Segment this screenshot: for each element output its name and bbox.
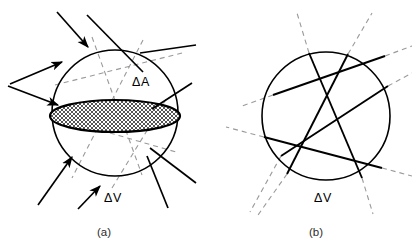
panel-b-chords	[264, 53, 388, 178]
panel-a-delta-a-label: ΔA	[132, 75, 150, 89]
ray-5	[8, 86, 58, 105]
panel-b-caption: (b)	[309, 226, 323, 238]
ray-1	[57, 12, 88, 47]
ext-6	[362, 178, 373, 214]
ray-2	[87, 15, 143, 72]
ext-4	[382, 168, 412, 176]
panel-b-sphere-outline	[262, 52, 390, 180]
ext-5	[297, 13, 309, 53]
ext-2	[242, 95, 273, 106]
ray-9	[147, 156, 168, 208]
panel-a-cross-section-ellipse	[50, 100, 180, 132]
panel-b-chord-extensions	[226, 13, 412, 215]
ray-7	[38, 157, 72, 205]
panel-a: ΔA ΔV (a)	[8, 12, 196, 238]
ray-8	[78, 186, 100, 209]
diagram-svg: ΔA ΔV (a) ΔV (b)	[0, 0, 412, 246]
chord-5	[281, 86, 388, 156]
ray-4	[10, 62, 62, 84]
ray-3	[140, 45, 196, 53]
ext-8	[258, 174, 287, 215]
ext-7	[348, 13, 372, 54]
ext-1	[385, 46, 412, 56]
panel-a-delta-v-label: ΔV	[104, 191, 122, 205]
ray-10	[150, 148, 196, 183]
chord-1	[273, 56, 385, 95]
panel-a-caption: (a)	[97, 226, 111, 238]
ext-3	[226, 127, 264, 137]
ext-10	[388, 73, 412, 86]
panel-b: ΔV (b)	[226, 13, 412, 238]
figure-container: ΔA ΔV (a) ΔV (b)	[0, 0, 412, 246]
hidden-ray-1	[55, 52, 186, 85]
panel-b-delta-v-label: ΔV	[314, 191, 332, 205]
chord-2	[264, 137, 382, 168]
